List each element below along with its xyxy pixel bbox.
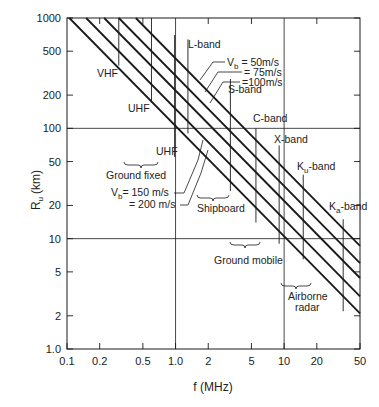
y-tick-label: 10 bbox=[49, 233, 61, 245]
vhf-label: VHF bbox=[97, 67, 118, 79]
y-tick-label: 50 bbox=[49, 156, 61, 168]
y-axis-title: Ru(km) bbox=[29, 170, 45, 210]
airborne-brace bbox=[281, 283, 311, 289]
ka-band-label: Ka-band bbox=[329, 200, 367, 215]
uhf-label-2: UHF bbox=[156, 145, 178, 157]
x-tick-label: 0.2 bbox=[92, 355, 107, 367]
y-tick-label: 2 bbox=[55, 310, 61, 322]
uhf-label-1: UHF bbox=[128, 102, 150, 114]
y-tick-label: 20 bbox=[49, 199, 61, 211]
ku-band-label: Ku-band bbox=[297, 160, 335, 175]
ground-mobile-label: Ground mobile bbox=[214, 254, 283, 266]
x-band-label: X-band bbox=[274, 133, 308, 145]
y-tick-label: 1.0 bbox=[46, 343, 61, 355]
x-tick-label: 20 bbox=[311, 355, 323, 367]
radar-range-chart: 0.10.20.51.025102050 1.02510205010020050… bbox=[0, 0, 379, 407]
svg-text:Ru(km): Ru(km) bbox=[29, 170, 45, 210]
x-tick-label: 0.1 bbox=[59, 355, 74, 367]
c-band-label: C-band bbox=[253, 112, 288, 124]
shipboard-label: Shipboard bbox=[197, 202, 245, 214]
velocity-line bbox=[119, 18, 360, 263]
x-axis-title: f (MHz) bbox=[193, 380, 232, 394]
vb-50-leader bbox=[200, 62, 225, 80]
y-tick-label: 100 bbox=[43, 122, 61, 134]
x-tick-label: 2 bbox=[205, 355, 211, 367]
vb-150-leader bbox=[174, 140, 203, 193]
x-tick-label: 5 bbox=[248, 355, 254, 367]
x-tick-label: 50 bbox=[354, 355, 366, 367]
shipboard-brace bbox=[197, 195, 229, 201]
y-tick-label: 5 bbox=[55, 266, 61, 278]
x-tick-label: 1.0 bbox=[168, 355, 183, 367]
vb-200-leader bbox=[180, 150, 208, 205]
y-tick-label: 200 bbox=[43, 89, 61, 101]
y-tick-label: 1000 bbox=[37, 12, 61, 24]
ground-mobile-brace bbox=[230, 242, 260, 248]
x-tick-label: 0.5 bbox=[135, 355, 150, 367]
vb-100-label: =100m/s bbox=[242, 76, 283, 88]
velocity-line bbox=[136, 18, 360, 246]
x-tick-label: 10 bbox=[278, 355, 290, 367]
vb-200-label: = 200 m/s bbox=[129, 198, 175, 210]
ground-fixed-label: Ground fixed bbox=[106, 169, 166, 181]
airborne-label-2: radar bbox=[295, 301, 320, 313]
ground-fixed-brace bbox=[124, 162, 158, 168]
l-band-label: L-band bbox=[188, 38, 221, 50]
y-tick-label: 500 bbox=[43, 45, 61, 57]
